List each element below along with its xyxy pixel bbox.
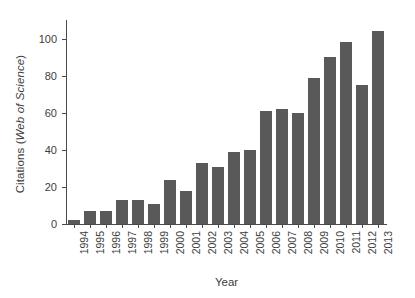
x-tick-mark-2005 <box>250 224 251 228</box>
x-tick-mark-1998 <box>138 224 139 228</box>
x-tick-label-2004: 2004 <box>238 231 250 254</box>
x-tick-mark-2006 <box>266 224 267 228</box>
x-tick-mark-1995 <box>90 224 91 228</box>
y-tick-label: 40 <box>45 144 57 156</box>
bar-1995 <box>84 211 95 224</box>
bar-2001 <box>180 191 191 224</box>
y-axis-title-italic: Web of Science <box>14 59 26 141</box>
x-tick-label-1997: 1997 <box>126 231 138 254</box>
x-axis-line <box>66 224 387 225</box>
x-tick-mark-2003 <box>218 224 219 228</box>
x-tick-mark-2010 <box>330 224 331 228</box>
y-tick-mark <box>62 150 66 151</box>
bar-2000 <box>164 180 175 225</box>
x-tick-label-2007: 2007 <box>286 231 298 254</box>
y-tick-mark <box>62 113 66 114</box>
y-tick-mark <box>62 76 66 77</box>
x-tick-mark-2001 <box>186 224 187 228</box>
x-tick-mark-2011 <box>346 224 347 228</box>
y-tick-mark <box>62 39 66 40</box>
x-axis-title: Year <box>66 276 387 288</box>
x-tick-mark-1997 <box>122 224 123 228</box>
bar-1997 <box>116 200 127 224</box>
bar-2008 <box>292 113 303 224</box>
bar-2005 <box>244 150 255 224</box>
y-axis-title-prefix: Citations ( <box>14 140 26 193</box>
x-tick-label-1998: 1998 <box>142 231 154 254</box>
bar-2010 <box>324 57 335 224</box>
x-tick-mark-1999 <box>154 224 155 228</box>
y-axis-title: Citations (Web of Science) <box>8 12 32 236</box>
x-tick-label-2009: 2009 <box>318 231 330 254</box>
citations-bar-chart: Citations (Web of Science) 0204060801001… <box>0 0 415 298</box>
y-axis-title-suffix: ) <box>14 55 26 59</box>
bar-1998 <box>132 200 143 224</box>
x-tick-label-2005: 2005 <box>254 231 266 254</box>
x-tick-label-1995: 1995 <box>94 231 106 254</box>
bar-2013 <box>372 31 383 224</box>
x-tick-label-2001: 2001 <box>190 231 202 254</box>
x-tick-mark-2004 <box>234 224 235 228</box>
plot-area: 0204060801001994199519961997199819992000… <box>66 20 386 224</box>
y-tick-label: 0 <box>51 218 57 230</box>
bar-2002 <box>196 163 207 224</box>
bar-1996 <box>100 211 111 224</box>
x-tick-mark-1996 <box>106 224 107 228</box>
x-tick-label-1996: 1996 <box>110 231 122 254</box>
x-tick-mark-1994 <box>74 224 75 228</box>
bar-1999 <box>148 204 159 224</box>
bar-2006 <box>260 111 271 224</box>
bar-2012 <box>356 85 367 224</box>
x-tick-mark-2008 <box>298 224 299 228</box>
y-tick-label: 60 <box>45 107 57 119</box>
bar-2011 <box>340 42 351 224</box>
x-tick-mark-2013 <box>378 224 379 228</box>
x-tick-label-2010: 2010 <box>334 231 346 254</box>
x-tick-label-2012: 2012 <box>366 231 378 254</box>
y-tick-label: 100 <box>39 33 57 45</box>
x-tick-label-2011: 2011 <box>350 231 362 254</box>
x-tick-label-2008: 2008 <box>302 231 314 254</box>
y-tick-label: 20 <box>45 181 57 193</box>
bar-2004 <box>228 152 239 224</box>
x-tick-mark-2000 <box>170 224 171 228</box>
y-tick-mark <box>62 187 66 188</box>
x-tick-mark-2002 <box>202 224 203 228</box>
bar-2003 <box>212 167 223 224</box>
bar-2007 <box>276 109 287 224</box>
x-tick-label-2003: 2003 <box>222 231 234 254</box>
x-tick-label-1994: 1994 <box>78 231 90 254</box>
x-tick-mark-2009 <box>314 224 315 228</box>
x-tick-mark-2007 <box>282 224 283 228</box>
x-tick-label-2002: 2002 <box>206 231 218 254</box>
x-tick-label-2006: 2006 <box>270 231 282 254</box>
bar-2009 <box>308 78 319 225</box>
x-tick-label-1999: 1999 <box>158 231 170 254</box>
y-tick-label: 80 <box>45 70 57 82</box>
x-tick-mark-2012 <box>362 224 363 228</box>
x-tick-label-2000: 2000 <box>174 231 186 254</box>
x-tick-label-2013: 2013 <box>382 231 394 254</box>
y-tick-mark <box>62 224 66 225</box>
